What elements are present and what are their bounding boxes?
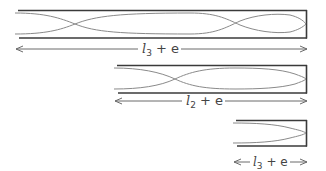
standing-wave-upper [233, 123, 306, 133]
length-subscript: 3 [146, 48, 152, 58]
standing-wave-lower [233, 133, 306, 143]
end-correction: + e [156, 41, 179, 56]
length-label-bottom: l3 + e [251, 155, 290, 171]
end-correction: + e [200, 93, 223, 108]
standing-wave-upper [114, 68, 306, 89]
length-subscript: 2 [190, 100, 196, 110]
tube-top [15, 10, 307, 39]
tube-bottom [233, 120, 307, 147]
length-subscript: 3 [257, 161, 263, 171]
standing-wave-lower [15, 13, 306, 34]
length-label-middle: l2 + e [184, 94, 225, 112]
end-correction: + e [266, 155, 287, 169]
standing-wave-lower [114, 68, 306, 89]
length-label-top: l3 + e [140, 42, 181, 60]
tube-middle [114, 65, 307, 94]
diagram-canvas [0, 0, 326, 171]
